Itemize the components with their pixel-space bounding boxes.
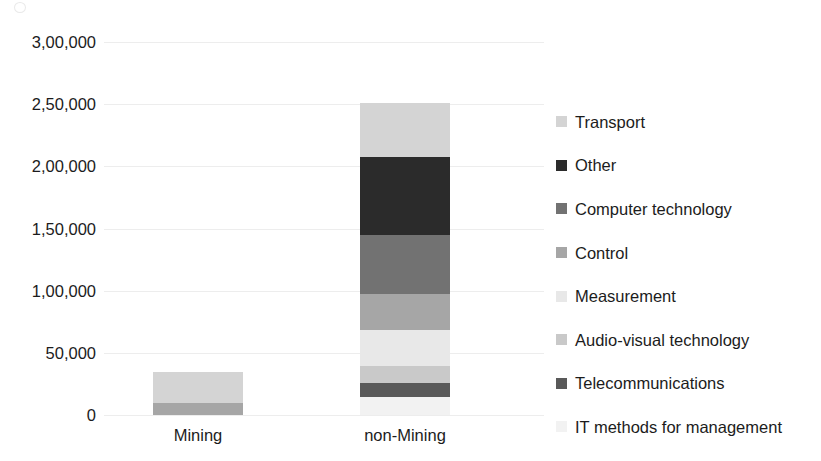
- bar-segment: [153, 372, 243, 404]
- bar-segment: [360, 103, 450, 157]
- legend-label: Computer technology: [575, 200, 732, 218]
- legend-swatch-icon: [556, 291, 567, 302]
- legend-label: Transport: [575, 113, 645, 131]
- bar-mining: [153, 371, 243, 415]
- legend-label: IT methods for management: [575, 418, 782, 436]
- legend-swatch-icon: [556, 334, 567, 345]
- bar-segment: [360, 397, 450, 415]
- legend-item[interactable]: Audio-visual technology: [556, 318, 818, 362]
- legend-swatch-icon: [556, 203, 567, 214]
- legend-label: Audio-visual technology: [575, 331, 749, 349]
- bar-segment: [360, 235, 450, 294]
- legend-item[interactable]: Control: [556, 231, 818, 275]
- legend-item[interactable]: Telecommunications: [556, 362, 818, 406]
- legend-swatch-icon: [556, 160, 567, 171]
- bar-segment: [360, 366, 450, 383]
- bar-segment: [360, 294, 450, 330]
- legend-label: Telecommunications: [575, 374, 724, 392]
- y-tick-label: 2,50,000: [0, 96, 96, 112]
- gridline: [104, 166, 544, 167]
- legend-item[interactable]: Computer technology: [556, 187, 818, 231]
- y-tick-label: 3,00,000: [0, 34, 96, 50]
- y-tick-label: 0: [0, 407, 96, 423]
- y-tick-label: 1,00,000: [0, 283, 96, 299]
- gridline: [104, 291, 544, 292]
- bar-segment: [360, 383, 450, 397]
- legend-label: Measurement: [575, 287, 676, 305]
- x-tick-label: Mining: [123, 426, 273, 444]
- legend-swatch-icon: [556, 421, 567, 432]
- legend-label: Other: [575, 156, 616, 174]
- plot-area: [104, 42, 544, 415]
- x-tick-label: non-Mining: [330, 426, 480, 444]
- gridline: [104, 353, 544, 354]
- gridline: [104, 229, 544, 230]
- bar-segment: [360, 157, 450, 235]
- gridline: [104, 415, 544, 416]
- chart-legend: TransportOtherComputer technologyControl…: [556, 100, 818, 449]
- y-axis-tick-labels: 050,0001,00,0001,50,0002,00,0002,50,0003…: [0, 42, 96, 415]
- legend-item[interactable]: IT methods for management: [556, 405, 818, 449]
- legend-label: Control: [575, 244, 628, 262]
- bar-non-mining: [360, 103, 450, 415]
- stacked-bar-chart: 050,0001,00,0001,50,0002,00,0002,50,0003…: [0, 0, 821, 461]
- gridline: [104, 42, 544, 43]
- legend-item[interactable]: Measurement: [556, 274, 818, 318]
- y-tick-label: 2,00,000: [0, 158, 96, 174]
- gridline: [104, 104, 544, 105]
- bar-segment: [360, 330, 450, 366]
- legend-swatch-icon: [556, 116, 567, 127]
- legend-item[interactable]: Other: [556, 144, 818, 188]
- bar-segment: [153, 403, 243, 415]
- legend-swatch-icon: [556, 378, 567, 389]
- y-tick-label: 50,000: [0, 345, 96, 361]
- y-tick-label: 1,50,000: [0, 221, 96, 237]
- crop-artifact-mark: [14, 2, 26, 13]
- legend-item[interactable]: Transport: [556, 100, 818, 144]
- legend-swatch-icon: [556, 247, 567, 258]
